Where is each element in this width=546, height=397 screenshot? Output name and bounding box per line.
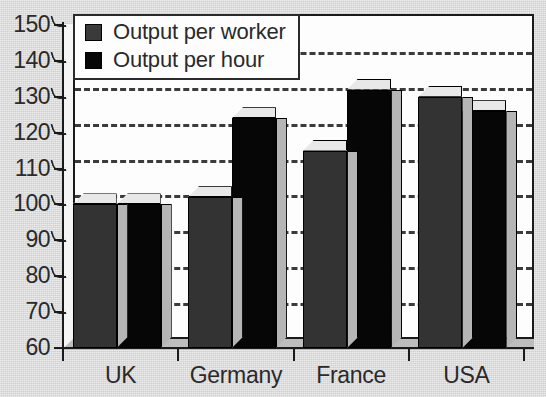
y-axis-tick-mark <box>54 96 63 98</box>
y-axis-tick-mark <box>54 275 63 277</box>
x-axis-tick-mark <box>62 349 64 361</box>
chart-legend: Output per workerOutput per hour <box>73 14 300 80</box>
y-axis-tick-mark <box>54 239 63 241</box>
bar-chart: 15014013012011010090807060 UKGermanyFran… <box>0 0 546 397</box>
legend-item: Output per hour <box>85 46 286 74</box>
y-axis-tick-mark <box>54 311 63 313</box>
y-axis-tick-label: 60 <box>4 336 50 359</box>
bar-side-face <box>232 197 243 348</box>
x-axis-tick-mark <box>408 349 410 361</box>
y-axis-tick-mark <box>54 203 63 205</box>
x-axis-category-label: UK <box>105 364 136 387</box>
bar-front-face <box>303 151 347 348</box>
gridline <box>75 88 532 91</box>
bar-front-face <box>73 204 117 348</box>
bar-side-face <box>347 151 358 348</box>
legend-item-label: Output per hour <box>113 49 264 71</box>
x-axis-tick-mark <box>293 349 295 361</box>
y-axis-tick-label: 70 <box>4 300 50 323</box>
y-axis-tick-label: 90 <box>4 228 50 251</box>
y-axis-tick-label: 80 <box>4 264 50 287</box>
bar-side-face <box>276 118 287 348</box>
bar <box>303 151 347 348</box>
x-axis-tick-mark <box>523 349 525 361</box>
bar-front-face <box>418 97 462 348</box>
x-axis-category-label: USA <box>443 364 489 387</box>
y-axis-tick-label: 100 <box>4 192 50 215</box>
y-axis-line <box>62 22 64 349</box>
legend-item: Output per worker <box>85 18 286 46</box>
x-axis-category-label: Germany <box>190 364 282 387</box>
x-axis-category-label: France <box>316 364 386 387</box>
y-axis-tick-mark <box>54 24 63 26</box>
y-axis-tick-label: 150 <box>4 13 50 36</box>
y-axis-tick-label: 140 <box>4 49 50 72</box>
dark-gray-swatch <box>85 24 102 41</box>
y-axis-tick-mark <box>54 60 63 62</box>
bar-side-face <box>161 204 172 348</box>
legend-item-label: Output per worker <box>113 21 286 43</box>
y-axis-tick-mark <box>54 168 63 170</box>
y-axis-tick-mark <box>54 132 63 134</box>
y-axis-tick-label: 120 <box>4 121 50 144</box>
y-axis-tick-label: 130 <box>4 85 50 108</box>
black-swatch <box>85 52 102 69</box>
bar-side-face <box>117 204 128 348</box>
bar <box>188 197 232 348</box>
bar-side-face <box>462 97 473 348</box>
bar-front-face <box>188 197 232 348</box>
y-axis-tick-label: 110 <box>4 157 50 180</box>
bar-side-face <box>506 111 517 348</box>
bar-side-face <box>391 90 402 348</box>
bar <box>73 204 117 348</box>
x-axis-tick-mark <box>177 349 179 361</box>
bar <box>418 97 462 348</box>
